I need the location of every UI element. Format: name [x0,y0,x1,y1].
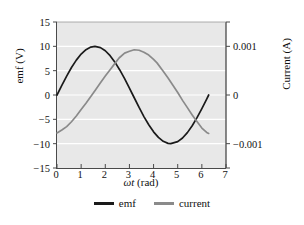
x-tick-label-5: 5 [174,169,179,180]
x-tick-label-3: 3 [126,169,131,180]
y-tick-label-left-0: 15 [40,17,51,28]
y-tick-label-left-5: −10 [34,138,50,149]
x-tick-label-2: 2 [102,169,107,180]
x-tick-label-1: 1 [78,169,83,180]
y-tick-label-left-4: −5 [39,114,50,125]
plot-area [56,22,226,169]
x-tick-label-7: 7 [222,169,227,180]
series-curve-current [57,50,209,134]
y-tick-label-right-1: 0 [233,90,238,101]
plot-svg [57,22,226,168]
y-axis-left-title: emf (V) [13,21,25,111]
legend-label-emf: emf [119,198,136,209]
legend-label-current: current [179,198,210,209]
x-tick-marks [57,164,226,168]
x-tick-label-6: 6 [198,169,203,180]
gridlines [57,46,226,143]
y-tick-label-left-2: 5 [45,65,50,76]
legend-swatch-emf [94,202,114,204]
x-tick-label-0: 0 [53,169,58,180]
y-tick-label-left-6: −15 [34,163,50,174]
chart-legend: emfcurrent [0,198,304,209]
x-tick-label-4: 4 [150,169,155,180]
legend-item-current[interactable]: current [154,198,210,209]
legend-item-emf[interactable]: emf [94,198,136,209]
chart-figure: emf (V) Current (A) ωt (rad) 151050−5−10… [0,0,304,225]
y-tick-label-left-3: 0 [45,90,50,101]
y-axis-right-title: Current (A) [280,18,292,110]
y-tick-label-right-0: 0.001 [233,41,257,52]
legend-swatch-current [154,202,174,204]
y-tick-label-right-2: −0.001 [233,138,263,149]
y-tick-label-left-1: 10 [40,41,51,52]
